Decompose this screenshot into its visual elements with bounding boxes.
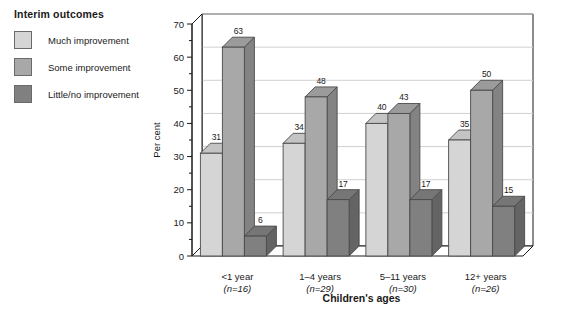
bar-value-label: 31: [212, 132, 222, 142]
bar-side-face: [244, 37, 254, 256]
bar-value-label: 50: [482, 69, 492, 79]
bar-front-face: [327, 200, 349, 256]
bar-front-face: [410, 200, 432, 256]
y-axis-tick-label: 40: [173, 118, 184, 129]
bar-front-face: [471, 90, 493, 256]
bar-value-label: 40: [377, 102, 387, 112]
bar-value-label: 17: [338, 179, 348, 189]
bar-value-label: 48: [316, 76, 326, 86]
bar-front-face: [283, 143, 305, 256]
bar-side-face: [432, 190, 442, 256]
y-axis-tick-label: 50: [173, 85, 184, 96]
x-axis-category-sublabel: (n=16): [224, 283, 252, 294]
bar-value-label: 34: [294, 122, 304, 132]
y-axis-tick-label: 0: [179, 251, 184, 262]
bar-value-label: 6: [258, 215, 263, 225]
y-axis-tick-label: 70: [173, 19, 184, 30]
chart-svg: 010203040506070Per cent31636<1 year(n=16…: [0, 0, 564, 318]
chart-plot-area: 010203040506070Per cent31636<1 year(n=16…: [0, 0, 564, 318]
y-axis-tick-label: 30: [173, 151, 184, 162]
y-axis-tick-label: 10: [173, 217, 184, 228]
x-axis-category-label: 1–4 years: [299, 271, 341, 282]
bar-value-label: 63: [234, 26, 244, 36]
bar-value-label: 43: [399, 92, 409, 102]
bar-front-face: [305, 97, 327, 256]
y-axis-tick-label: 60: [173, 52, 184, 63]
bar-value-label: 17: [421, 179, 431, 189]
chart-figure: Interim outcomes Much improvement Some i…: [0, 0, 564, 318]
bar-value-label: 35: [460, 119, 470, 129]
bar-front-face: [493, 206, 515, 256]
y-axis-tick-label: 20: [173, 184, 184, 195]
x-axis-category-label: 12+ years: [465, 271, 507, 282]
x-axis-category-label: 5–11 years: [380, 271, 427, 282]
bar-front-face: [449, 140, 471, 256]
bar-side-face: [349, 190, 359, 256]
x-axis-category-sublabel: (n=26): [472, 283, 500, 294]
y-axis-title: Per cent: [151, 122, 162, 158]
bar-front-face: [222, 47, 244, 256]
x-axis-title: Children's ages: [323, 292, 401, 304]
bar-value-label: 15: [504, 185, 514, 195]
bar-front-face: [366, 123, 388, 256]
bar-front-face: [388, 113, 410, 256]
x-axis-category-label: <1 year: [221, 271, 253, 282]
bar-front-face: [244, 236, 266, 256]
bar-front-face: [200, 153, 222, 256]
